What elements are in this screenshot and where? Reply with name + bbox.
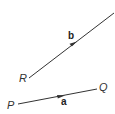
point-p-label: P (7, 99, 15, 111)
vector-a-label: a (61, 96, 67, 107)
point-q-label: Q (99, 81, 108, 93)
point-r-label: R (19, 72, 27, 84)
vector-diagram: b R a P Q (0, 0, 115, 114)
vector-b-label: b (68, 30, 74, 41)
